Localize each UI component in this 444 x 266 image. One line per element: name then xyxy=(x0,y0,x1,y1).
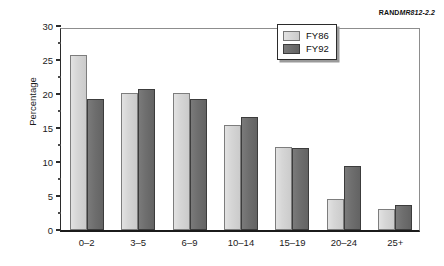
bar-group-bars xyxy=(224,117,258,230)
bar-group: 0–2 xyxy=(61,26,112,230)
legend-label-FY92: FY92 xyxy=(306,43,329,54)
bar-group-bars xyxy=(173,93,207,230)
plot-area: 0510152025300–23–56–910–1415–1920–2425+ xyxy=(60,28,420,232)
bar-FY86-25+[interactable] xyxy=(378,209,395,230)
bar-FY92-15–19[interactable] xyxy=(292,148,309,230)
legend-item-FY92[interactable]: FY92 xyxy=(283,42,329,55)
y-tick-label: 10 xyxy=(42,157,53,168)
bar-group-bars xyxy=(327,166,361,230)
bar-group: 3–5 xyxy=(112,26,163,230)
x-tick-label: 25+ xyxy=(365,237,425,248)
legend-swatch-FY86 xyxy=(283,31,300,41)
bar-FY92-0–2[interactable] xyxy=(87,99,104,230)
bar-FY86-15–19[interactable] xyxy=(275,147,292,230)
source-id-label: RANDMR812-2.2 xyxy=(379,9,435,16)
bar-group-bars xyxy=(378,205,412,230)
bar-FY92-6–9[interactable] xyxy=(190,99,207,230)
legend-swatch-FY92 xyxy=(283,44,300,54)
bar-group: 10–14 xyxy=(215,26,266,230)
y-tick-label: 5 xyxy=(48,191,53,202)
source-id-italic: MR812-2.2 xyxy=(399,9,435,16)
y-tick-label: 30 xyxy=(42,21,53,32)
bar-group-bars xyxy=(121,89,155,230)
bar-FY92-20–24[interactable] xyxy=(344,166,361,230)
source-id-bold: RAND xyxy=(379,9,400,16)
chart-legend: FY86FY92 xyxy=(277,24,337,60)
y-tick-label: 20 xyxy=(42,89,53,100)
bar-FY86-0–2[interactable] xyxy=(70,55,87,230)
bar-FY86-3–5[interactable] xyxy=(121,93,138,230)
y-tick-label: 0 xyxy=(48,225,53,236)
legend-label-FY86: FY86 xyxy=(306,30,329,41)
bar-group-bars xyxy=(275,147,309,230)
bar-group-bars xyxy=(70,55,104,230)
legend-item-FY86[interactable]: FY86 xyxy=(283,29,329,42)
bar-FY86-10–14[interactable] xyxy=(224,125,241,230)
bar-group: 25+ xyxy=(370,26,421,230)
bar-FY92-25+[interactable] xyxy=(395,205,412,230)
y-tick-label: 25 xyxy=(42,55,53,66)
bar-group: 6–9 xyxy=(164,26,215,230)
bar-FY92-3–5[interactable] xyxy=(138,89,155,230)
bar-FY86-20–24[interactable] xyxy=(327,199,344,230)
y-tick-label: 15 xyxy=(42,123,53,134)
bar-FY86-6–9[interactable] xyxy=(173,93,190,230)
chart-figure: RANDMR812-2.2 Percentage 0510152025300–2… xyxy=(0,0,444,266)
bar-FY92-10–14[interactable] xyxy=(241,117,258,230)
y-axis-title: Percentage xyxy=(27,52,38,152)
